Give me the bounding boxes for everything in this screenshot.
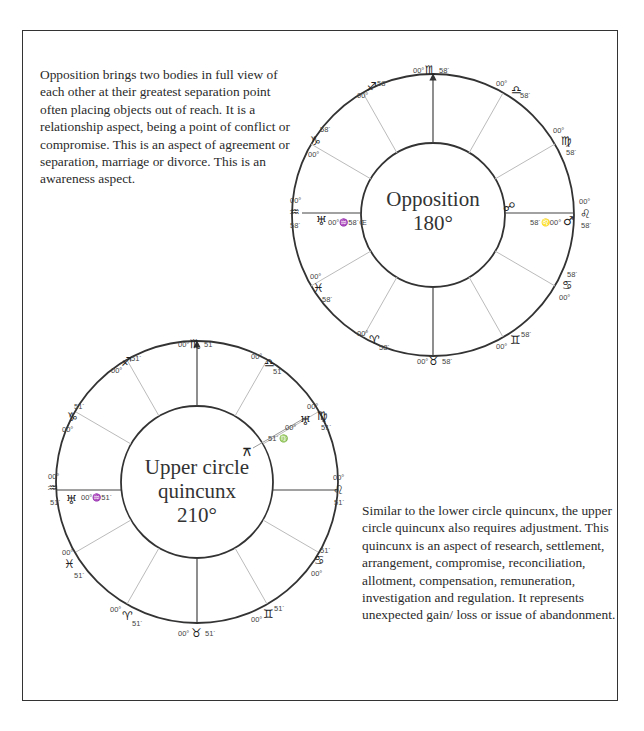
uranus-left-position: 00°♒51´	[81, 493, 112, 502]
gemini-icon: ♊	[510, 333, 521, 347]
svg-text:51´: 51´	[50, 498, 61, 507]
scorpio-icon: ♏	[425, 63, 436, 77]
taurus-icon: ♉	[428, 354, 439, 368]
cancer-icon: ♋	[562, 278, 573, 292]
svg-text:00°: 00°	[290, 196, 301, 205]
uranus-icon: ♅	[316, 214, 327, 228]
aquarius-icon: ♒	[289, 205, 300, 219]
svg-text:58´: 58´	[442, 357, 453, 366]
aspect-charts: Opposition 180° 00° ♏ 58´ 00° ♎ 58´ 00° …	[0, 0, 644, 731]
svg-text:51´: 51´	[132, 619, 143, 628]
aquarius-icon: ♒	[47, 481, 58, 495]
svg-text:51´: 51´	[205, 629, 216, 638]
virgo-icon: ♍	[317, 409, 328, 423]
opposition-wheel: Opposition 180° 00° ♏ 58´ 00° ♎ 58´ 00° …	[289, 63, 592, 368]
svg-text:58´: 58´	[377, 79, 388, 88]
svg-text:00°: 00°	[496, 342, 507, 351]
svg-text:00°: 00°	[62, 548, 73, 557]
mars-icon: ♂	[563, 214, 574, 228]
svg-text:00°: 00°	[178, 340, 189, 349]
svg-text:00°: 00°	[251, 352, 262, 361]
svg-text:58´: 58´	[566, 148, 577, 157]
svg-text:58´: 58´	[439, 66, 450, 75]
svg-text:58´: 58´	[322, 295, 333, 304]
quincunx-aspect-icon: ⚻	[243, 445, 251, 459]
taurus-icon: ♉	[191, 626, 202, 640]
svg-text:58´: 58´	[379, 343, 390, 352]
svg-text:00°: 00°	[496, 79, 507, 88]
svg-text:51´: 51´	[204, 340, 215, 349]
quincunx-degree: 210°	[177, 503, 217, 527]
svg-text:51´: 51´	[334, 498, 345, 507]
opposition-degree: 180°	[413, 211, 453, 235]
svg-text:00°: 00°	[579, 197, 590, 206]
opposition-title: Opposition	[386, 187, 480, 211]
svg-text:51´: 51´	[274, 604, 285, 613]
cancer-icon: ♋	[314, 553, 325, 567]
svg-text:00°: 00°	[357, 91, 368, 100]
svg-text:00°: 00°	[333, 473, 344, 482]
svg-text:51´: 51´	[74, 571, 85, 580]
svg-text:00°: 00°	[308, 150, 319, 159]
uranus-upper-position: 51´♍	[268, 434, 288, 443]
capricorn-icon: ♑	[310, 134, 321, 148]
uranus-icon-left: ♅	[66, 493, 77, 507]
svg-text:00°: 00°	[357, 329, 368, 338]
svg-text:00°: 00°	[413, 66, 424, 75]
scorpio-icon: ♏	[190, 337, 201, 351]
leo-icon: ♌	[333, 483, 344, 497]
svg-text:00°: 00°	[311, 569, 322, 578]
svg-text:58´: 58´	[581, 221, 592, 230]
svg-text:51´: 51´	[273, 367, 284, 376]
gemini-icon: ♊	[263, 607, 274, 621]
uranus-position: 00°♒58´Œ	[328, 218, 367, 227]
mars-position: 58´♌00°	[530, 218, 561, 227]
svg-text:58´: 58´	[521, 330, 532, 339]
svg-text:51´: 51´	[131, 354, 142, 363]
sagittarius-icon: ♐	[121, 355, 132, 369]
pisces-icon: ♓	[64, 557, 75, 571]
quincunx-title-line2: quincunx	[158, 479, 237, 503]
svg-text:00°: 00°	[111, 366, 122, 375]
virgo-icon: ♍	[561, 134, 572, 148]
svg-text:51´: 51´	[321, 423, 332, 432]
svg-text:58´: 58´	[320, 125, 331, 134]
svg-text:00°: 00°	[285, 423, 296, 432]
quincunx-title-line1: Upper circle	[145, 455, 249, 479]
svg-text:00°: 00°	[251, 615, 262, 624]
opposition-aspect-icon: ☍	[503, 200, 515, 214]
svg-text:58´: 58´	[520, 91, 531, 100]
svg-text:00°: 00°	[559, 293, 570, 302]
pisces-icon: ♓	[313, 281, 324, 295]
svg-text:00°: 00°	[417, 357, 428, 366]
svg-text:00°: 00°	[310, 272, 321, 281]
uranus-icon-upper: ♅	[300, 414, 311, 428]
svg-text:00°: 00°	[178, 629, 189, 638]
svg-text:00°: 00°	[48, 472, 59, 481]
svg-text:00°: 00°	[110, 605, 121, 614]
svg-text:00°: 00°	[62, 425, 73, 434]
svg-text:58´: 58´	[290, 221, 301, 230]
capricorn-icon: ♑	[67, 410, 78, 424]
quincunx-wheel: Upper circle quincunx 210° 00° ♏ 51´ 00°…	[47, 337, 345, 640]
leo-icon: ♌	[580, 207, 591, 221]
